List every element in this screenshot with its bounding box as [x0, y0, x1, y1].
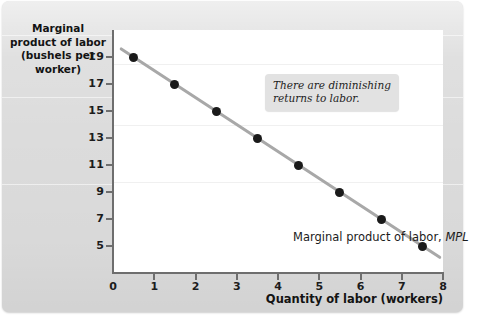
data-point	[170, 80, 179, 89]
x-axis-tick	[318, 273, 320, 280]
y-axis-ticklabel: 7	[60, 212, 104, 226]
y-axis-tick	[106, 245, 113, 247]
y-axis-ticklabel-text: 7	[64, 212, 104, 225]
y-axis-ticklabel-text: 9	[64, 185, 104, 198]
annotation-text: There are diminishing returns to labor.	[273, 79, 391, 105]
x-axis-tick	[401, 273, 403, 280]
data-point	[212, 107, 221, 116]
y-axis-tick	[106, 110, 113, 112]
y-axis-ticklabel-text: 13	[64, 131, 104, 144]
y-axis-ticklabel: 13	[60, 131, 104, 145]
y-axis-ticklabel: 9	[60, 185, 104, 199]
data-point	[129, 53, 138, 62]
y-axis-title-line: product of labor	[8, 36, 108, 50]
y-axis-ticklabel: 11	[60, 158, 104, 172]
y-axis-title-line: worker)	[8, 63, 108, 77]
y-axis-ticklabel-text: 5	[64, 239, 104, 252]
series-label-emphasis: MPL	[445, 230, 468, 244]
y-axis-ticklabel-text: 17	[64, 77, 104, 90]
y-axis-title: Marginalproduct of labor(bushels perwork…	[8, 22, 108, 76]
y-axis-ticklabel-text: 11	[64, 158, 104, 171]
data-point	[377, 215, 386, 224]
x-axis-tick	[236, 273, 238, 280]
x-axis-tick	[277, 273, 279, 280]
y-axis-ticklabel-text: 15	[64, 104, 104, 117]
y-axis-tick	[106, 83, 113, 85]
annotation-callout: There are diminishing returns to labor.	[265, 74, 399, 111]
y-axis	[112, 30, 114, 274]
x-axis-title: Quantity of labor (workers)	[243, 292, 443, 306]
series-label-text: Marginal product of labor,	[293, 230, 445, 244]
plot-area: Marginal product of labor, MPL There are…	[113, 30, 443, 273]
y-axis-ticklabel: 17	[60, 77, 104, 91]
y-axis-ticklabel: 15	[60, 104, 104, 118]
x-axis-ticklabel: 2	[181, 280, 211, 293]
series-label-mpl: Marginal product of labor, MPL	[293, 230, 469, 244]
x-axis-tick	[360, 273, 362, 280]
y-axis-title-line: Marginal	[8, 22, 108, 36]
x-axis-ticklabel: 0	[98, 280, 128, 293]
y-axis-tick	[106, 191, 113, 193]
y-axis-tick	[106, 218, 113, 220]
data-point	[294, 161, 303, 170]
y-axis-title-line: (bushels per	[8, 49, 108, 63]
x-axis-tick	[153, 273, 155, 280]
y-axis-ticklabel: 5	[60, 239, 104, 253]
data-point	[253, 134, 262, 143]
x-axis-tick	[195, 273, 197, 280]
y-axis-tick	[106, 164, 113, 166]
x-axis-tick	[442, 273, 444, 280]
y-axis-tick	[106, 137, 113, 139]
data-point	[335, 188, 344, 197]
x-axis-ticklabel: 1	[139, 280, 169, 293]
figure: Marginal product of labor, MPL There are…	[0, 0, 481, 326]
